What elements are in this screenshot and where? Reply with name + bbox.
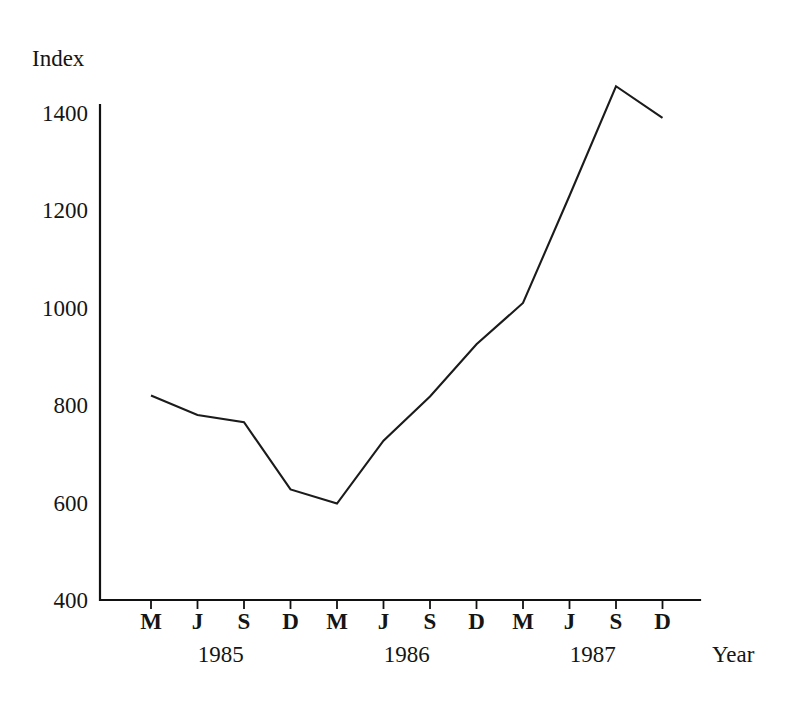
x-axis-year-label: 1987 — [570, 642, 616, 667]
line-chart: Index 400600800100012001400 MJSDMJSDMJSD… — [0, 0, 791, 705]
chart-canvas: Index 400600800100012001400 MJSDMJSDMJSD… — [0, 0, 791, 705]
x-axis-month-label: D — [468, 609, 485, 634]
y-axis-tick-label: 400 — [54, 588, 89, 613]
x-axis-tick-marks — [151, 600, 663, 609]
y-axis-tick-label: 1000 — [42, 296, 88, 321]
y-axis-tick-label: 1200 — [42, 198, 88, 223]
x-axis-month-label: M — [512, 609, 534, 634]
x-axis-month-label: J — [378, 609, 390, 634]
x-axis-title: Year — [712, 642, 755, 667]
x-axis-year-label: 1985 — [198, 642, 244, 667]
axis-lines — [100, 105, 700, 600]
data-series-line — [151, 86, 663, 503]
x-axis-month-label: J — [564, 609, 576, 634]
x-axis-month-label: M — [326, 609, 348, 634]
y-axis-tick-label: 600 — [54, 491, 89, 516]
x-axis-year-label: 1986 — [384, 642, 430, 667]
x-axis-month-label: D — [654, 609, 671, 634]
x-axis-month-label: S — [610, 609, 623, 634]
y-axis-tick-label: 800 — [54, 393, 89, 418]
x-axis-year-labels: 198519861987 — [198, 642, 616, 667]
y-axis-title: Index — [32, 46, 85, 71]
x-axis-month-label: D — [282, 609, 299, 634]
y-axis-tick-labels: 400600800100012001400 — [42, 101, 88, 613]
x-axis-month-label: J — [192, 609, 204, 634]
x-axis-month-label: M — [140, 609, 162, 634]
y-axis-tick-label: 1400 — [42, 101, 88, 126]
x-axis-month-label: S — [238, 609, 251, 634]
x-axis-month-labels: MJSDMJSDMJSD — [140, 609, 671, 634]
x-axis-month-label: S — [424, 609, 437, 634]
